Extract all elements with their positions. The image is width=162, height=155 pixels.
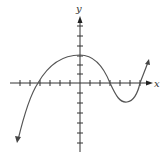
x-axis-label: x	[154, 78, 160, 89]
y-axis-label: y	[75, 3, 82, 14]
function-graph: x y	[0, 0, 162, 155]
curve-right-arrow-icon	[145, 59, 150, 65]
y-axis: y	[75, 3, 83, 152]
function-curve	[15, 55, 150, 143]
curve-left-arrow-icon	[15, 136, 21, 143]
x-axis-arrow-icon	[146, 81, 153, 86]
y-axis-arrow-icon	[78, 16, 83, 23]
x-axis: x	[10, 78, 160, 89]
